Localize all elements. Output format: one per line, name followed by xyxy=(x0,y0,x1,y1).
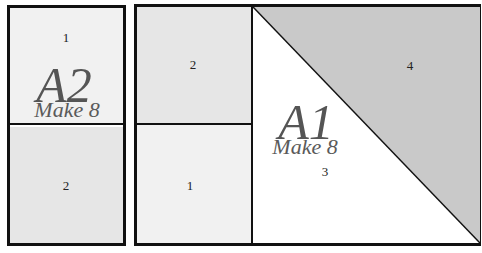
a2-piece-2-label: 2 xyxy=(63,178,70,194)
a1-piece-3-label: 3 xyxy=(322,164,329,180)
a1-piece-4-label: 4 xyxy=(407,58,414,74)
a2-piece-1-label: 1 xyxy=(63,30,70,46)
a1-subtitle: Make 8 xyxy=(272,136,337,158)
a1-piece-2-label: 2 xyxy=(190,57,197,73)
a2-subtitle: Make 8 xyxy=(34,99,99,121)
a1-piece-1 xyxy=(137,125,253,243)
a1-piece-1-label: 1 xyxy=(187,178,194,194)
